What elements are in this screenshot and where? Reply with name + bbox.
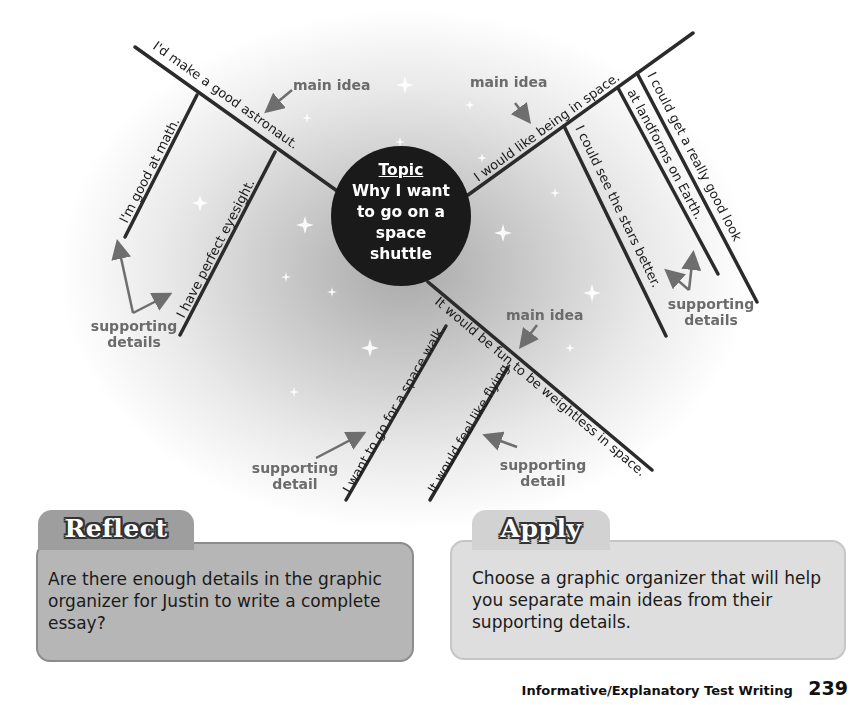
topic-label: Topic <box>331 160 471 181</box>
detail-1-1: I'm good at math. <box>116 115 182 225</box>
supporting-details-label-right: supporting details <box>665 296 757 328</box>
detail-1-2: I have perfect eyesight. <box>173 176 257 320</box>
apply-heading: Apply <box>472 510 610 550</box>
reflect-heading: Reflect <box>38 510 194 550</box>
topic-text: Why I want to go on a space shuttle <box>346 181 456 265</box>
apply-instruction: Choose a graphic organizer that will hel… <box>472 567 832 633</box>
page-number: 239 <box>808 677 848 699</box>
page-footer: Informative/Explanatory Test Writing 239 <box>522 677 848 699</box>
reflect-question: Are there enough details in the graphic … <box>48 568 398 634</box>
topic-circle: Topic Why I want to go on a space shuttl… <box>331 146 471 286</box>
main-idea-label-2: main idea <box>470 74 547 90</box>
supporting-detail-label-2: supporting detail <box>498 457 588 489</box>
supporting-detail-label-1: supporting detail <box>250 460 340 492</box>
main-idea-label-1: main idea <box>293 77 370 93</box>
footer-title: Informative/Explanatory Test Writing <box>522 683 793 698</box>
detail-3-1: I want to go for a space walk. <box>340 322 449 496</box>
main-idea-label-3: main idea <box>506 307 583 323</box>
supporting-details-label-left: supporting details <box>88 318 180 350</box>
